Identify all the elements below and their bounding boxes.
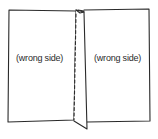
right-panel-label: (wrong side) [94,53,141,63]
left-panel-label: (wrong side) [16,53,63,63]
right-fabric-panel [84,9,150,122]
left-fabric-panel [8,10,76,122]
seam-diagram [0,0,158,139]
